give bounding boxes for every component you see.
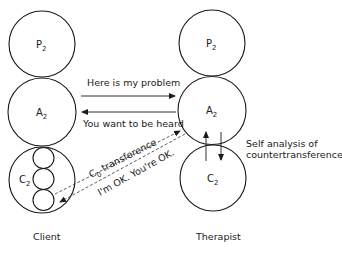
client-adult-circle: A2: [8, 78, 76, 146]
client-caption: Client: [33, 231, 61, 242]
self-analysis: Self analysis of countertransference: [206, 132, 342, 161]
client-parent-circle: P2: [9, 11, 75, 77]
svg-text:C2: C2: [207, 173, 218, 187]
client-child-subcircle-middle: [33, 169, 54, 190]
ego-state-transaction-diagram: P2 A2 C2 Client P2 A2 C2 Therapist: [0, 0, 342, 253]
countertransference-label: countertransference: [246, 149, 342, 160]
client-child-subcircle-bottom: [33, 190, 54, 211]
client-ego-states: P2 A2 C2 Client: [8, 11, 76, 242]
transference-transactions: C0 transference I'm OK. You're OK.: [55, 131, 185, 202]
svg-text:C2: C2: [19, 174, 30, 188]
svg-text:A2: A2: [206, 105, 217, 119]
svg-text:P2: P2: [206, 38, 217, 52]
here-is-my-problem-label: Here is my problem: [87, 77, 180, 88]
therapist-adult-circle: A2: [178, 77, 246, 145]
svg-text:A2: A2: [36, 107, 47, 121]
you-want-to-be-heard-label: You want to be heard: [82, 118, 184, 129]
ok-dashed-arrow: [60, 134, 185, 202]
therapist-ego-states: P2 A2 C2 Therapist: [178, 10, 246, 242]
therapist-child-circle: C2: [180, 145, 246, 211]
therapist-caption: Therapist: [195, 231, 241, 242]
self-analysis-label: Self analysis of: [246, 138, 318, 149]
client-child-circle: C2: [9, 147, 75, 213]
adult-transactions: Here is my problem You want to be heard: [81, 77, 184, 129]
therapist-parent-circle: P2: [179, 10, 245, 76]
svg-text:P2: P2: [36, 39, 47, 53]
client-child-subcircle-top: [33, 148, 54, 169]
